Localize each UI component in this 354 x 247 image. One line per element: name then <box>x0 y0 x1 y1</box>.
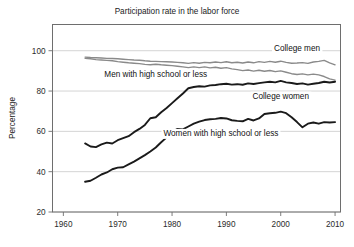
chart-background <box>0 0 354 247</box>
chart-title: Participation rate in the labor force <box>115 7 240 16</box>
x-tick-label: 1980 <box>163 220 182 229</box>
y-tick-label: 80 <box>36 87 46 96</box>
y-tick-label: 60 <box>36 127 46 136</box>
y-axis-label: Percentage <box>8 97 17 139</box>
x-tick-label: 2000 <box>272 220 291 229</box>
x-tick-label: 2010 <box>326 220 345 229</box>
series-label: Women with high school or less <box>163 129 278 138</box>
series-label: College men <box>274 44 320 53</box>
y-tick-label: 100 <box>32 47 46 56</box>
series-label: College women <box>253 92 310 101</box>
x-tick-label: 1990 <box>217 220 236 229</box>
y-tick-label: 40 <box>36 168 46 177</box>
x-tick-label: 1960 <box>54 220 73 229</box>
y-tick-label: 20 <box>36 208 46 217</box>
participation-rate-line-chart: Participation rate in the labor force 20… <box>0 0 354 247</box>
chart-container: Participation rate in the labor force 20… <box>0 0 354 247</box>
x-tick-label: 1970 <box>109 220 128 229</box>
series-label: Men with high school or less <box>104 70 207 79</box>
